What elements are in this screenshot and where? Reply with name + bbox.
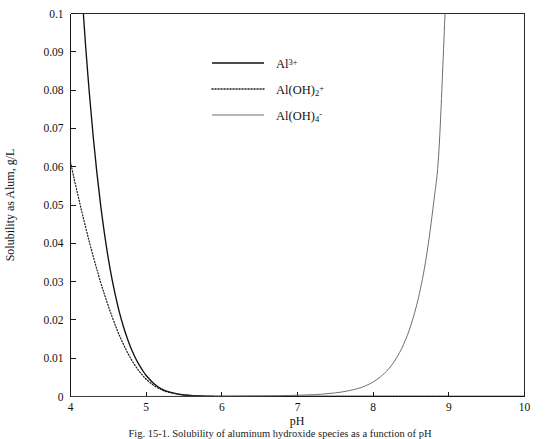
figure-container: 45678910 00.010.020.030.040.050.060.070.… — [0, 0, 548, 439]
y-axis-tick-labels: 00.010.020.030.040.050.060.070.080.090.1 — [43, 8, 63, 403]
x-axis-title: pH — [290, 414, 305, 428]
x-tick-label: 8 — [370, 401, 376, 413]
data-series-group — [71, 14, 525, 397]
x-tick-label: 4 — [68, 401, 74, 413]
series-line-Al3 — [83, 14, 524, 397]
y-tick-label: 0.01 — [43, 352, 63, 364]
y-axis-ticks — [71, 14, 76, 397]
x-tick-label: 10 — [519, 401, 531, 413]
legend-label: Al(OH)4- — [276, 108, 322, 123]
y-tick-label: 0.04 — [43, 237, 63, 249]
y-tick-label: 0.06 — [43, 161, 63, 173]
figure-caption: Fig. 15-1. Solubility of aluminum hydrox… — [128, 428, 431, 439]
y-tick-label: 0.03 — [43, 276, 63, 288]
chart-legend: Al3+Al(OH)2+Al(OH)4- — [212, 56, 324, 123]
x-tick-label: 9 — [446, 401, 452, 413]
x-axis-tick-labels: 45678910 — [68, 401, 531, 413]
x-tick-label: 6 — [219, 401, 225, 413]
y-tick-label: 0.02 — [43, 314, 63, 326]
series-line-AlOH4 — [71, 14, 446, 397]
x-tick-label: 5 — [143, 401, 149, 413]
series-lines — [71, 14, 525, 397]
y-tick-label: 0.05 — [43, 199, 63, 211]
y-axis-title: Solubility as Alum, g/L — [3, 149, 17, 262]
solubility-chart: 45678910 00.010.020.030.040.050.060.070.… — [0, 0, 548, 439]
y-tick-label: 0.1 — [49, 8, 64, 20]
plot-frame — [71, 14, 525, 397]
legend-label: Al(OH)2+ — [276, 82, 324, 97]
y-tick-label: 0.09 — [43, 46, 63, 58]
x-tick-label: 7 — [295, 401, 301, 413]
y-tick-label: 0.07 — [43, 122, 63, 134]
y-tick-label: 0 — [58, 391, 64, 403]
series-line-AlOH2 — [71, 162, 449, 396]
y-tick-label: 0.08 — [43, 84, 63, 96]
legend-label: Al3+ — [276, 56, 298, 70]
